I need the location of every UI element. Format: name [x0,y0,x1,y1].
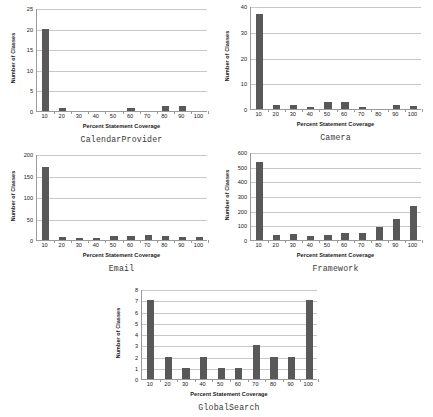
x-tick-label: 10 [41,242,47,248]
bar [59,237,66,240]
bar [341,102,348,109]
bar [288,357,295,380]
bar [59,108,66,111]
x-tick-label: 90 [392,111,398,117]
y-tick-label: 200 [238,209,247,215]
bar-series-email [37,155,207,240]
y-tick-label: 2 [135,355,138,361]
bar [42,167,49,240]
chart-panel-camera: Number of Classes01020304010203040506070… [222,2,427,145]
bar [393,105,400,109]
bar [256,14,263,109]
y-tick-label: 30 [241,30,247,36]
bar [393,219,400,240]
bar [273,235,280,240]
x-tick-label: 30 [76,242,82,248]
x-tick-label: 10 [255,111,261,117]
chart-caption-email: Email [8,264,213,273]
y-tick-label: 3 [135,343,138,349]
plot-area-framework: Number of Classes0100200300400500600 [222,148,427,241]
bar [270,357,277,380]
bar [179,237,186,240]
bar [253,345,260,379]
x-tick-label: 20 [164,381,170,387]
x-tick-label: 50 [110,113,116,119]
x-tick-label: 70 [358,111,364,117]
bar-series-camera [251,7,421,109]
x-tick-label: 60 [341,242,347,248]
x-tick-label: 20 [273,242,279,248]
bar-series-globalsearch [142,290,317,379]
bar [165,357,172,380]
x-tick-label: 20 [59,242,65,248]
x-tick-label: 60 [127,113,133,119]
x-tick-label: 100 [304,381,313,387]
y-axis-ticks-email: 050100150200 [19,150,35,241]
y-tick-label: 300 [238,194,247,200]
chart-caption-calendarprovider: CalendarProvider [8,135,213,144]
y-axis-title-email: Number of Classes [8,150,19,241]
x-tick-label: 50 [324,242,330,248]
y-tick-label: 15 [27,47,33,53]
y-tick-label: 50 [27,217,33,223]
bar [324,102,331,109]
bar [162,106,169,111]
bar [376,227,383,240]
x-tick-label: 100 [194,242,203,248]
y-tick-label: 100 [24,195,33,201]
plot-rect-globalsearch [141,290,317,380]
figure-coverage-histograms: Number of Classes05101520251020304050607… [0,0,433,417]
x-tick-label: 90 [287,381,293,387]
y-axis-title-text: Number of Classes [225,169,231,220]
x-tick-label: 40 [307,242,313,248]
y-tick-label: 400 [238,179,247,185]
x-tick-label: 50 [110,242,116,248]
x-tick-label: 40 [307,111,313,117]
x-tick-label: 30 [290,111,296,117]
x-tick-label: 90 [178,113,184,119]
chart-panel-globalsearch: Number of Classes01234567810203040506070… [113,285,323,415]
plot-area-email: Number of Classes050100150200 [8,150,213,241]
x-tick-label: 80 [161,242,167,248]
y-axis-title-text: Number of Classes [11,170,17,221]
chart-panel-calendarprovider: Number of Classes05101520251020304050607… [8,4,213,147]
y-axis-title-text: Number of Classes [11,33,17,84]
bar [42,29,49,111]
bar [235,368,242,379]
y-tick-label: 200 [24,152,33,158]
x-tick-label: 80 [270,381,276,387]
x-tick-label: 80 [375,111,381,117]
y-axis-ticks-calendarprovider: 0510152025 [19,4,35,112]
bar-series-framework [251,153,421,240]
bar [200,357,207,380]
chart-panel-email: Number of Classes05010015020010203040506… [8,150,213,276]
x-tick-label: 70 [144,242,150,248]
bar [290,105,297,109]
bar [182,368,189,379]
y-tick-label: 20 [27,27,33,33]
bar [359,233,366,240]
y-tick-label: 150 [24,174,33,180]
y-tick-label: 1 [135,366,138,372]
x-tick-label: 30 [76,113,82,119]
x-tick-label: 60 [127,242,133,248]
bar [179,106,186,111]
chart-caption-globalsearch: GlobalSearch [113,403,323,412]
x-tick-label: 80 [161,113,167,119]
y-tick-label: 100 [238,223,247,229]
x-tick-label: 10 [255,242,261,248]
bar [162,236,169,240]
bar [256,162,263,240]
plot-area-camera: Number of Classes010203040 [222,2,427,110]
y-axis-title-camera: Number of Classes [222,2,233,110]
bar [410,106,417,109]
bar [145,235,152,240]
x-tick-label: 60 [235,381,241,387]
bar [359,107,366,109]
x-tick-label: 70 [252,381,258,387]
plot-area-calendarprovider: Number of Classes0510152025 [8,4,213,112]
bar [341,233,348,240]
y-axis-ticks-camera: 010203040 [233,2,249,110]
x-tick-label: 10 [147,381,153,387]
chart-caption-camera: Camera [222,133,427,142]
